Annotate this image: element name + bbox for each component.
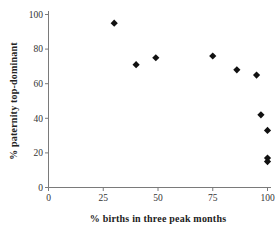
data-point bbox=[264, 127, 271, 134]
x-axis-title: % births in three peak months bbox=[48, 213, 268, 227]
x-tick-label: 25 bbox=[99, 193, 109, 203]
y-tick-label: 100 bbox=[29, 10, 44, 20]
y-tick-label: 20 bbox=[34, 148, 44, 158]
data-point bbox=[133, 61, 140, 68]
y-tick-label: 40 bbox=[34, 114, 44, 124]
x-tick-label: 0 bbox=[46, 193, 51, 203]
x-tick-label: 100 bbox=[260, 193, 275, 203]
x-tick-label: 75 bbox=[208, 193, 218, 203]
data-point bbox=[152, 54, 159, 61]
y-tick-label: 60 bbox=[34, 79, 44, 89]
y-tick-label: 0 bbox=[38, 183, 43, 193]
data-point bbox=[257, 111, 264, 118]
data-point bbox=[233, 66, 240, 73]
y-axis-title: % paternity top-dominant bbox=[8, 21, 22, 181]
data-point bbox=[253, 71, 260, 78]
data-point bbox=[209, 52, 216, 59]
y-tick-label: 80 bbox=[34, 44, 44, 54]
scatter-chart: 0204060801000255075100 % paternity top-d… bbox=[0, 0, 280, 236]
data-point bbox=[111, 20, 118, 27]
plot-area: 0204060801000255075100 bbox=[0, 0, 280, 236]
x-tick-label: 50 bbox=[153, 193, 163, 203]
